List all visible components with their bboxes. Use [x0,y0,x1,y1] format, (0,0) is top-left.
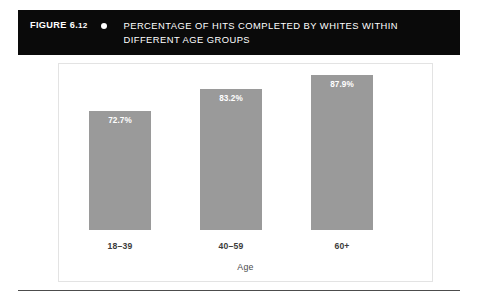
figure-number-label: FIGURE 6.12 [30,19,87,32]
category-label-2: 60+ [311,241,373,251]
category-label-0: 18–39 [89,241,151,251]
chart-frame: 72.7% 18–39 83.2% 40–59 87.9% 60+ Age [58,63,433,282]
bar-value-2: 87.9% [311,80,373,89]
figure-number-prefix: FIGURE 6. [30,20,78,30]
bullet-dot-icon [101,23,107,29]
bar-0: 72.7% [89,111,151,230]
x-axis-title: Age [59,262,432,272]
bar-2: 87.9% [311,75,373,230]
category-label-1: 40–59 [200,241,262,251]
plot-area: 72.7% 18–39 83.2% 40–59 87.9% 60+ Age [59,64,432,281]
bar-value-0: 72.7% [89,116,151,125]
bar-value-1: 83.2% [200,94,262,103]
figure-number-suffix: 12 [78,21,87,30]
figure-banner: FIGURE 6.12 PERCENTAGE OF HITS COMPLETED… [18,10,460,55]
figure-title: PERCENTAGE OF HITS COMPLETED BY WHITES W… [123,19,450,46]
bar-1: 83.2% [200,89,262,230]
bottom-divider-rule [18,290,460,291]
